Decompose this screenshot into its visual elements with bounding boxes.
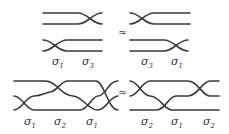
relation1-left-labels: σ1 σ3: [52, 55, 95, 70]
generator-label: σ1: [52, 55, 64, 70]
generator-label: σ2: [141, 115, 154, 130]
strand: [130, 13, 190, 24]
generator-label: σ1: [24, 115, 36, 130]
generator-label: σ2: [54, 115, 67, 130]
generator-label: σ1: [86, 115, 98, 130]
relation2-right-labels: σ2 σ1 σ2: [141, 115, 216, 130]
strand: [130, 40, 188, 51]
relation1-right-braid: [130, 13, 190, 51]
strand: [130, 40, 188, 51]
strand: [43, 13, 102, 24]
generator-label: σ3: [141, 55, 154, 70]
strand: [14, 81, 118, 110]
relation2-left-braid: [14, 81, 118, 110]
strand: [43, 40, 102, 51]
relation2-left-labels: σ1 σ2 σ1: [24, 115, 98, 130]
strand: [130, 13, 190, 24]
strand: [14, 81, 118, 110]
approx-symbol: ≈: [118, 26, 127, 39]
braid-diagram: ≈ σ1 σ3 σ3 σ1 ≈ σ1 σ2 σ1 σ2 σ1 σ2: [0, 0, 229, 134]
strand: [43, 13, 102, 24]
generator-label: σ1: [171, 115, 183, 130]
relation1-left-braid: [43, 13, 102, 51]
strand: [43, 40, 102, 51]
generator-label: σ1: [171, 55, 183, 70]
generator-label: σ3: [82, 55, 95, 70]
generator-label: σ2: [203, 115, 216, 130]
approx-symbol: ≈: [118, 86, 127, 99]
relation2-right-braid: [130, 81, 219, 110]
relation1-right-labels: σ3 σ1: [141, 55, 183, 70]
strand: [14, 81, 118, 110]
